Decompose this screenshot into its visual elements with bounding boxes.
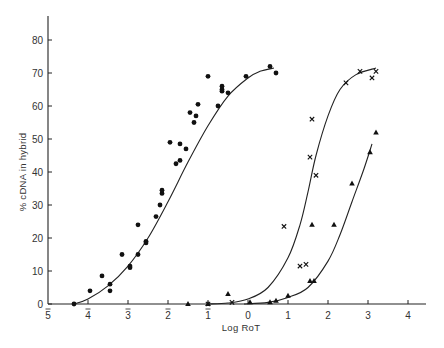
- crosses-fit-curve: [208, 68, 376, 304]
- triangle-marker: [373, 129, 379, 134]
- x-axis: 5432101234: [45, 300, 426, 321]
- dot-marker: [178, 158, 183, 163]
- x-tick-label: 2: [325, 310, 331, 321]
- y-tick-label: 70: [32, 68, 44, 79]
- dot-marker: [160, 188, 165, 193]
- chart: 01020304050607080 5432101234 Log RoT % c…: [0, 0, 444, 348]
- triangle-marker: [285, 293, 291, 298]
- dot-marker: [88, 288, 93, 293]
- triangle-marker: [225, 291, 231, 296]
- x-tick-label: 4: [405, 310, 411, 321]
- x-tick-label: 2: [165, 310, 171, 321]
- x-tick-label: 5: [45, 310, 51, 321]
- dot-marker: [206, 74, 211, 79]
- dot-marker: [120, 252, 125, 257]
- cross-marker: [344, 81, 348, 85]
- y-tick-label: 80: [32, 35, 44, 46]
- dot-marker: [184, 147, 189, 152]
- y-axis-title: % cDNA in hybrid: [17, 133, 28, 212]
- y-tick-label: 10: [32, 266, 44, 277]
- cross-marker: [370, 76, 374, 80]
- cross-marker: [374, 69, 378, 73]
- dot-marker: [168, 140, 173, 145]
- dot-marker: [174, 161, 179, 166]
- x-axis-title: Log RoT: [222, 322, 261, 333]
- dot-marker: [192, 120, 197, 125]
- dot-marker: [226, 90, 231, 95]
- dots-fit-curve: [74, 68, 274, 304]
- x-tick-label: 3: [125, 310, 131, 321]
- y-tick-label: 40: [32, 167, 44, 178]
- triangle-marker: [309, 222, 315, 227]
- dot-marker: [108, 282, 113, 287]
- dot-marker: [154, 214, 159, 219]
- y-tick-label: 30: [32, 200, 44, 211]
- dot-marker: [274, 71, 279, 76]
- x-tick-label: 1: [285, 310, 291, 321]
- x-tick-label: 3: [365, 310, 371, 321]
- dot-marker: [194, 114, 199, 119]
- cross-marker: [308, 155, 312, 159]
- cross-marker: [282, 224, 286, 228]
- triangle-marker: [367, 149, 373, 154]
- dot-marker: [220, 87, 225, 92]
- y-tick-label: 60: [32, 101, 44, 112]
- dot-marker: [178, 142, 183, 147]
- triangle-marker: [331, 222, 337, 227]
- dot-marker: [100, 274, 105, 279]
- triangle-marker: [349, 181, 355, 186]
- dot-marker: [136, 222, 141, 227]
- dot-marker: [188, 110, 193, 115]
- fit-curves: [74, 68, 376, 304]
- cross-marker: [314, 173, 318, 177]
- x-tick-label: 1: [205, 310, 211, 321]
- x-tick-label: 4: [85, 310, 91, 321]
- y-tick-label: 20: [32, 233, 44, 244]
- dot-marker: [144, 241, 149, 246]
- dot-marker: [196, 102, 201, 107]
- dot-marker: [128, 264, 133, 269]
- dot-marker: [136, 252, 141, 257]
- dot-marker: [244, 74, 249, 79]
- triangles-fit-curve: [244, 144, 372, 304]
- dot-marker: [108, 288, 113, 293]
- dot-marker: [216, 104, 221, 109]
- dot-marker: [268, 64, 273, 69]
- x-tick-label: 0: [245, 310, 251, 321]
- dot-marker: [158, 203, 163, 208]
- cross-marker: [304, 262, 308, 266]
- dot-marker: [72, 302, 77, 307]
- y-tick-label: 0: [37, 299, 43, 310]
- cross-marker: [298, 264, 302, 268]
- cross-marker: [310, 117, 314, 121]
- y-axis: 01020304050607080: [32, 16, 52, 310]
- y-tick-label: 50: [32, 134, 44, 145]
